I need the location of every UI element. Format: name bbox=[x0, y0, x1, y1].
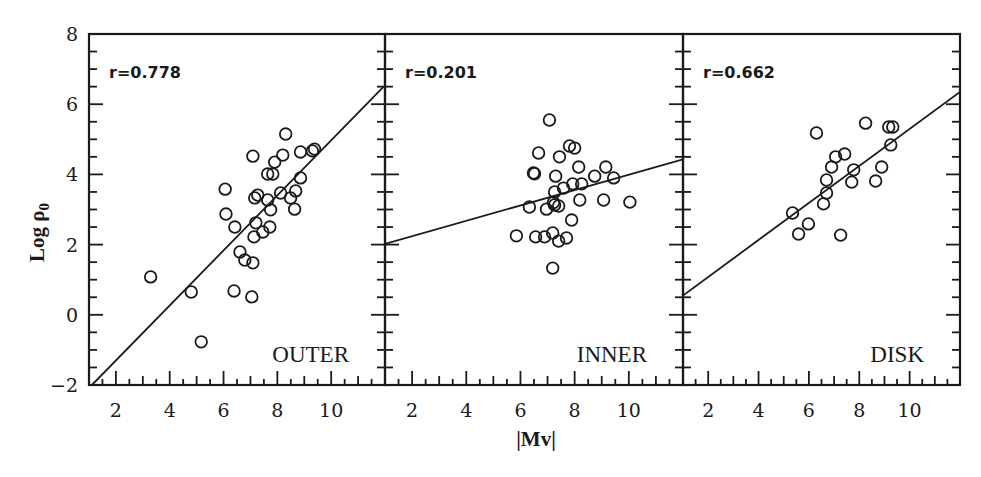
data-point bbox=[803, 218, 815, 230]
data-point bbox=[248, 231, 260, 243]
data-point bbox=[280, 128, 292, 140]
data-point bbox=[533, 147, 545, 159]
x-tick-label: 10 bbox=[898, 399, 922, 421]
x-tick-label: 6 bbox=[803, 399, 815, 421]
x-tick-label: 4 bbox=[752, 399, 764, 421]
data-point bbox=[229, 221, 241, 233]
x-tick-label: 4 bbox=[164, 399, 176, 421]
data-point bbox=[550, 170, 562, 182]
data-point bbox=[860, 117, 872, 129]
data-point bbox=[846, 176, 858, 188]
data-point bbox=[185, 286, 197, 298]
data-point bbox=[547, 262, 559, 274]
panel-title: DISK bbox=[870, 342, 924, 367]
data-point bbox=[295, 172, 307, 184]
data-point bbox=[818, 198, 830, 210]
x-tick-label: 2 bbox=[702, 399, 714, 421]
y-tick-label: 0 bbox=[66, 304, 78, 326]
data-point bbox=[295, 146, 307, 158]
scatter-figure: 246810r=0.778OUTER246810r=0.201INNER2468… bbox=[0, 0, 981, 477]
data-point bbox=[289, 203, 301, 215]
data-point bbox=[544, 114, 556, 126]
x-axis-label: |Mv| bbox=[516, 427, 556, 451]
x-tick-label: 10 bbox=[319, 399, 343, 421]
data-point bbox=[826, 161, 838, 173]
panel-title: OUTER bbox=[272, 342, 349, 367]
y-axis-tick-labels: −202468 bbox=[50, 23, 78, 396]
data-point bbox=[811, 127, 823, 139]
x-tick-label: 4 bbox=[460, 399, 472, 421]
x-tick-label: 6 bbox=[514, 399, 526, 421]
regression-line bbox=[92, 87, 384, 385]
data-point bbox=[220, 208, 232, 220]
data-point bbox=[566, 214, 578, 226]
panel-disk: 246810r=0.662DISK bbox=[683, 34, 960, 421]
data-point bbox=[219, 183, 231, 195]
y-tick-label: 2 bbox=[66, 234, 78, 256]
x-tick-label: 8 bbox=[853, 399, 865, 421]
correlation-label: r=0.201 bbox=[405, 63, 477, 82]
data-point bbox=[247, 257, 259, 269]
x-tick-label: 2 bbox=[406, 399, 418, 421]
y-axis-label: Log ρ0 bbox=[25, 203, 52, 262]
data-point bbox=[600, 161, 612, 173]
x-tick-label: 2 bbox=[110, 399, 122, 421]
panels: 246810r=0.778OUTER246810r=0.201INNER2468… bbox=[89, 34, 960, 421]
data-point bbox=[870, 175, 882, 187]
data-point bbox=[793, 228, 805, 240]
x-tick-label: 10 bbox=[617, 399, 641, 421]
data-point bbox=[624, 196, 636, 208]
data-point bbox=[835, 229, 847, 241]
data-point bbox=[554, 151, 566, 163]
x-tick-label: 8 bbox=[271, 399, 283, 421]
y-tick-label: 6 bbox=[66, 93, 78, 115]
data-point bbox=[598, 194, 610, 206]
y-tick-label: 4 bbox=[66, 163, 78, 185]
data-point bbox=[250, 217, 262, 229]
data-point bbox=[574, 194, 586, 206]
y-tick-label: −2 bbox=[50, 374, 78, 396]
plot-frame bbox=[89, 34, 385, 385]
data-point bbox=[821, 174, 833, 186]
y-tick-label: 8 bbox=[66, 23, 78, 45]
data-point bbox=[145, 271, 157, 283]
correlation-label: r=0.662 bbox=[703, 63, 775, 82]
data-point bbox=[246, 291, 258, 303]
data-point bbox=[573, 161, 585, 173]
data-point bbox=[589, 170, 601, 182]
data-point bbox=[876, 161, 888, 173]
x-tick-label: 8 bbox=[569, 399, 581, 421]
panel-outer: 246810r=0.778OUTER bbox=[89, 34, 385, 421]
data-point bbox=[249, 192, 261, 204]
correlation-label: r=0.778 bbox=[109, 63, 181, 82]
panel-inner: 246810r=0.201INNER bbox=[385, 34, 683, 421]
x-tick-label: 6 bbox=[217, 399, 229, 421]
data-point bbox=[511, 230, 523, 242]
data-point bbox=[247, 150, 259, 162]
panel-title: INNER bbox=[577, 342, 648, 367]
data-point bbox=[228, 285, 240, 297]
data-point bbox=[195, 336, 207, 348]
data-point bbox=[277, 149, 289, 161]
